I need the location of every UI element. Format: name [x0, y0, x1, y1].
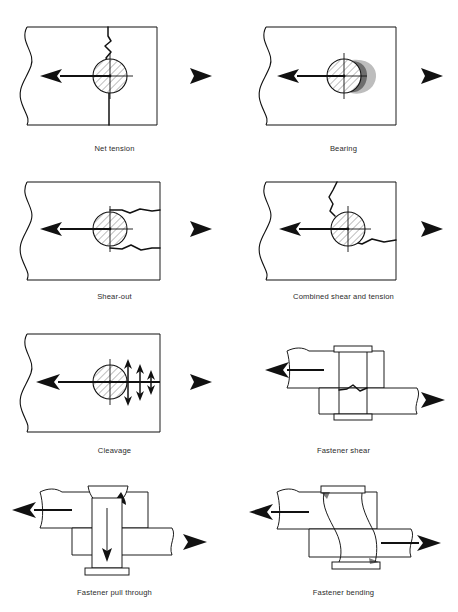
- load-arrow-right: [190, 221, 212, 237]
- panel-fastener-pull-through: [0, 472, 229, 590]
- load-arrow-right: [190, 374, 212, 390]
- panel-bearing: [229, 8, 458, 136]
- figure-sheet: Net tension: [0, 0, 458, 612]
- load-arrow-right: [421, 392, 445, 408]
- caption-fastener-bending: Fastener bending: [229, 588, 458, 597]
- fastener-head: [321, 486, 365, 493]
- panel-shear-out: [0, 168, 229, 293]
- panel-cleavage: [0, 322, 229, 444]
- load-arrow-right: [183, 534, 207, 550]
- lower-plate: [319, 388, 419, 414]
- panel-net-tension: [0, 8, 229, 136]
- caption-cleavage: Cleavage: [0, 446, 229, 455]
- panel-fastener-shear: [229, 322, 458, 444]
- caption-bearing: Bearing: [229, 144, 458, 153]
- fastener-tail: [334, 414, 372, 420]
- lower-plate: [72, 528, 174, 555]
- caption-combined-shear-and-tension: Combined shear and tension: [229, 292, 458, 301]
- fastener-head: [334, 346, 372, 352]
- plate-outline: [259, 182, 396, 280]
- panel-fastener-bending: [229, 472, 458, 590]
- caption-fastener-pull-through: Fastener pull through: [0, 588, 229, 597]
- panel-combined-shear-and-tension: [229, 168, 458, 293]
- caption-shear-out: Shear-out: [0, 292, 229, 301]
- caption-net-tension: Net tension: [0, 144, 229, 153]
- fastener-tail: [85, 568, 129, 575]
- load-arrow-right: [190, 68, 212, 84]
- upper-plate: [287, 348, 384, 388]
- plate-outline: [20, 182, 160, 280]
- load-arrow-right: [421, 68, 443, 84]
- load-arrow-right: [421, 221, 443, 237]
- caption-fastener-shear: Fastener shear: [229, 446, 458, 455]
